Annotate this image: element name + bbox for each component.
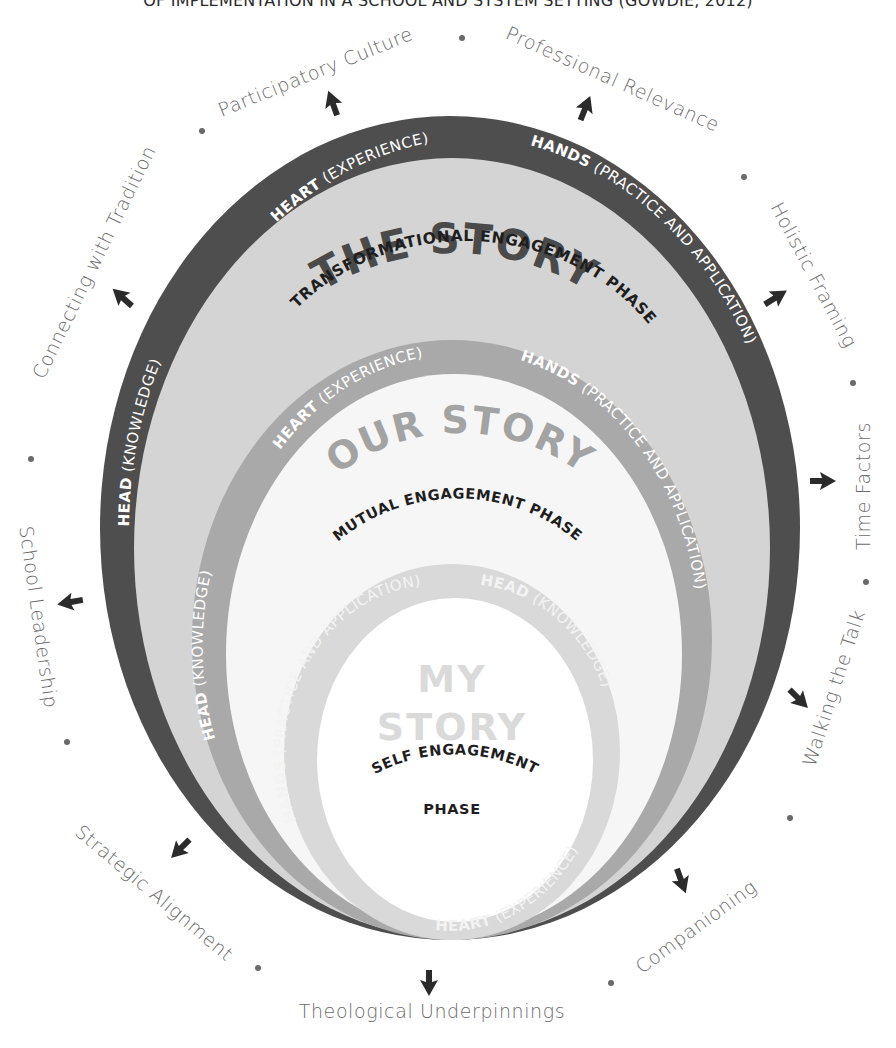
label-professional-relevance: Professional Relevance <box>503 21 723 135</box>
arrow-icon <box>572 93 598 124</box>
dot <box>608 980 614 986</box>
story-diagram: HEAD (KNOWLEDGE) HEART (EXPERIENCE) HAND… <box>0 0 896 1048</box>
arrow-icon <box>165 833 196 864</box>
dot <box>741 174 747 180</box>
label-school-leadership: School Leadership <box>15 525 62 710</box>
dot <box>28 456 34 462</box>
label-participatory-culture: Participatory Culture <box>215 22 416 120</box>
label-strategic-alignment: Strategic Alignment <box>71 820 238 965</box>
arrow-icon <box>810 472 836 490</box>
arrow-icon <box>668 866 694 897</box>
label-companioning: Companioning <box>631 875 760 977</box>
arrow-icon <box>783 683 814 714</box>
my-story-title-line1: MY <box>417 657 486 701</box>
label-holistic-framing: Holistic Framing <box>767 198 862 351</box>
label-time-factors: Time Factors <box>852 422 874 550</box>
arrow-icon <box>107 282 138 313</box>
label-walking-the-talk: Walking the Talk <box>798 607 869 769</box>
arrow-icon <box>56 591 85 613</box>
dot <box>787 815 793 821</box>
dot <box>863 579 869 585</box>
dot <box>459 35 465 41</box>
dot <box>255 965 261 971</box>
self-phase-label-line2: PHASE <box>423 801 480 817</box>
dot <box>199 128 205 134</box>
arrow-icon <box>420 970 438 996</box>
dot <box>64 739 70 745</box>
arrow-icon <box>760 283 792 312</box>
dot <box>850 380 856 386</box>
label-theological-underpinnings: Theological Underpinnings <box>299 1000 566 1022</box>
arrow-icon <box>320 88 346 119</box>
